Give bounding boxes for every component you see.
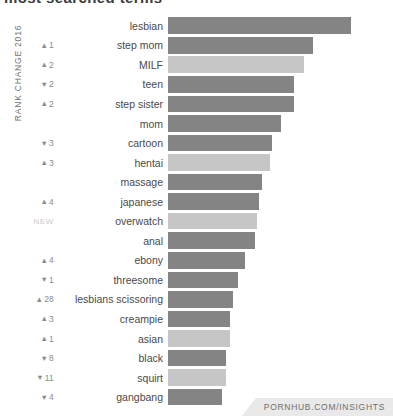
category-label: creampie [60, 313, 168, 325]
rank-change-value: 2 [49, 99, 54, 109]
bar [168, 291, 233, 308]
bar-track [168, 36, 393, 56]
rank-change-empty [0, 236, 60, 246]
bar [168, 193, 259, 210]
bar [168, 311, 230, 328]
up-arrow-icon: ▲ [40, 314, 48, 323]
bar-row: ▲1step mom [0, 36, 393, 56]
category-label: step sister [60, 98, 168, 110]
bar-track [168, 231, 393, 251]
footer: PORNHUB.COM/INSIGHTS [0, 398, 393, 416]
category-label: japanese [60, 196, 168, 208]
rank-change-value: 11 [45, 373, 54, 383]
rank-change-down: ▼1 [0, 275, 60, 285]
bar-row: ▼8black [0, 348, 393, 368]
category-label: teen [60, 78, 168, 90]
bar [168, 213, 257, 230]
bar-row: lesbian [0, 16, 393, 36]
bar-chart: RANK CHANGE 2016 lesbian▲1step mom▲2MILF… [0, 16, 393, 398]
bar [168, 252, 245, 269]
rank-change-empty [0, 119, 60, 129]
bar-row: mom [0, 114, 393, 134]
rank-change-value: 4 [49, 255, 54, 265]
bar-row: NEWoverwatch [0, 211, 393, 231]
category-label: massage [60, 176, 168, 188]
bar [168, 232, 255, 249]
rank-change-value: 1 [49, 334, 54, 344]
bar [168, 135, 272, 152]
down-arrow-icon: ▼ [40, 354, 48, 363]
bar [168, 17, 351, 34]
bar-track [168, 114, 393, 134]
rank-change-value: 4 [49, 197, 54, 207]
bar-track [168, 94, 393, 114]
bar-track [168, 211, 393, 231]
rank-change-value: 2 [49, 79, 54, 89]
down-arrow-icon: ▼ [40, 275, 48, 284]
rank-change-down: ▼8 [0, 353, 60, 363]
down-arrow-icon: ▼ [40, 139, 48, 148]
rank-change-up: ▲4 [0, 255, 60, 265]
category-label: squirt [60, 372, 168, 384]
rank-change-new-badge: NEW [0, 217, 60, 226]
rank-change-value: 2 [49, 60, 54, 70]
rank-change-value: 1 [49, 40, 54, 50]
bar-row: ▲1asian [0, 329, 393, 349]
rank-change-up: ▲2 [0, 60, 60, 70]
bar-track [168, 75, 393, 95]
bar-row: ▲2MILF [0, 55, 393, 75]
bar-row: ▼2teen [0, 75, 393, 95]
category-label: mom [60, 118, 168, 130]
bar [168, 330, 230, 347]
source-credit: PORNHUB.COM/INSIGHTS [242, 398, 393, 416]
bar-track [168, 133, 393, 153]
bar [168, 115, 281, 132]
bar-track [168, 270, 393, 290]
bar-row: ▼1threesome [0, 270, 393, 290]
bar-track [168, 153, 393, 173]
category-label: asian [60, 333, 168, 345]
bar [168, 272, 238, 289]
bar [168, 76, 294, 93]
rank-change-value: 3 [49, 158, 54, 168]
rank-change-value: 3 [49, 138, 54, 148]
bar-row: ▼11squirt [0, 368, 393, 388]
up-arrow-icon: ▲ [36, 295, 44, 304]
bar-track [168, 172, 393, 192]
rank-change-up: ▲1 [0, 40, 60, 50]
bar [168, 96, 294, 113]
bar-row: ▼3cartoon [0, 133, 393, 153]
bar [168, 369, 226, 386]
bar-track [168, 348, 393, 368]
category-label: step mom [60, 39, 168, 51]
bar [168, 37, 313, 54]
bar-track [168, 192, 393, 212]
bar [168, 154, 270, 171]
rank-change-up: ▲4 [0, 197, 60, 207]
rank-change-down: ▼3 [0, 138, 60, 148]
bar-row: ▲28lesbians scissoring [0, 290, 393, 310]
category-label: overwatch [60, 215, 168, 227]
bar-row: ▲3hentai [0, 153, 393, 173]
category-label: cartoon [60, 137, 168, 149]
category-label: threesome [60, 274, 168, 286]
rank-change-up: ▲3 [0, 314, 60, 324]
bar [168, 174, 262, 191]
bar-row: ▲4ebony [0, 251, 393, 271]
bar-track [168, 251, 393, 271]
up-arrow-icon: ▲ [40, 256, 48, 265]
rank-change-up: ▲2 [0, 99, 60, 109]
rank-change-value: 3 [49, 314, 54, 324]
up-arrow-icon: ▲ [40, 158, 48, 167]
category-label: ebony [60, 254, 168, 266]
bar-row: ▲4japanese [0, 192, 393, 212]
rank-change-up: ▲28 [0, 294, 60, 304]
rank-change-empty [0, 21, 60, 31]
category-label: anal [60, 235, 168, 247]
rank-change-up: ▲1 [0, 334, 60, 344]
bar [168, 56, 304, 73]
bar-row: anal [0, 231, 393, 251]
up-arrow-icon: ▲ [40, 99, 48, 108]
bar-track [168, 368, 393, 388]
up-arrow-icon: ▲ [40, 60, 48, 69]
